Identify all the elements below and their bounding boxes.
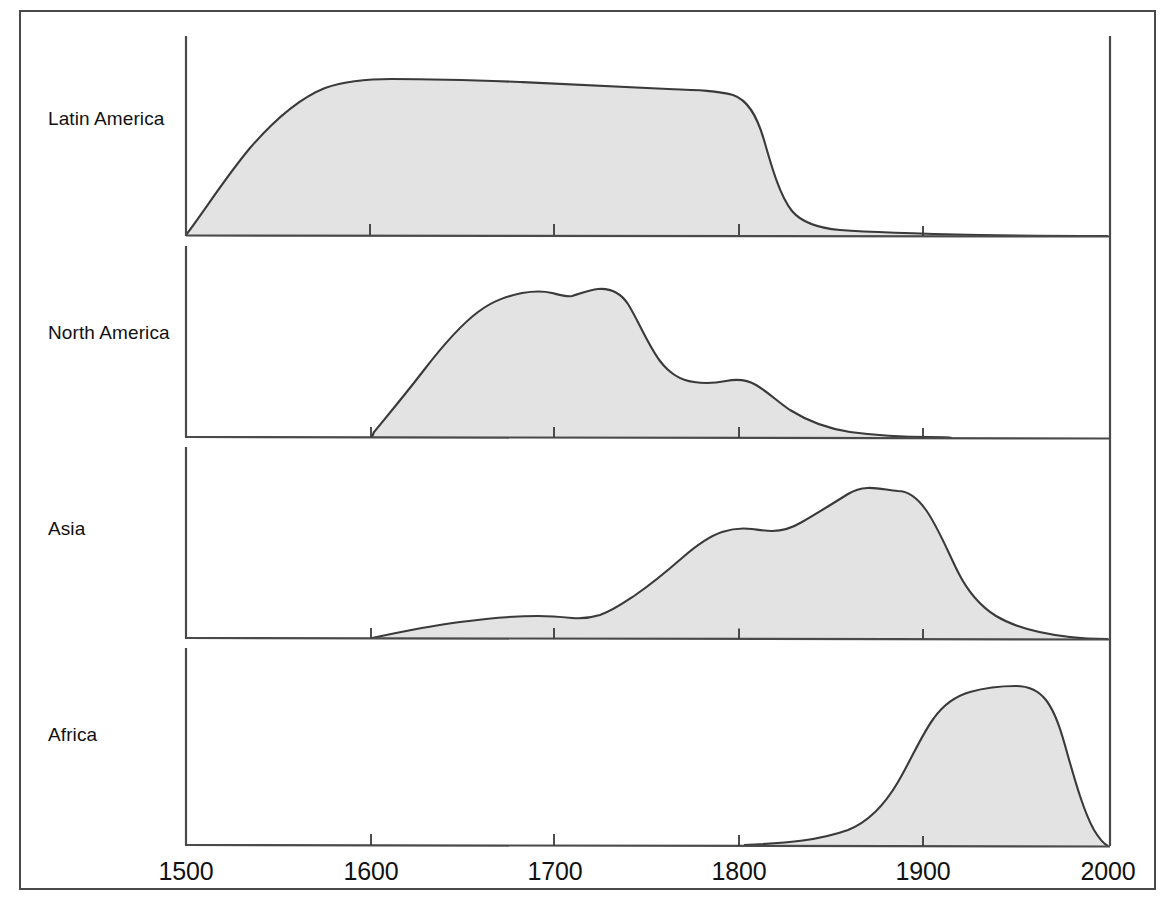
area-fill-africa xyxy=(744,686,1108,846)
x-tick-label-1500: 1500 xyxy=(159,857,214,886)
panel-label-north-america: North America xyxy=(48,322,170,344)
panel-label-africa: Africa xyxy=(48,724,97,746)
area-chart-plot xyxy=(0,0,1171,910)
baseline-africa xyxy=(186,845,1110,847)
x-tick-label-1700: 1700 xyxy=(528,857,583,886)
figure-container: Latin America North America Asia Africa … xyxy=(0,0,1171,910)
x-tick-label-1800: 1800 xyxy=(712,857,767,886)
panel-africa xyxy=(186,648,1110,847)
x-tick-label-1900: 1900 xyxy=(896,857,951,886)
baseline-latin-america xyxy=(186,236,1110,237)
panel-label-latin-america: Latin America xyxy=(48,108,164,130)
baseline-north-america xyxy=(186,437,1110,439)
x-tick-label-2000: 2000 xyxy=(1081,857,1136,886)
panel-latin-america xyxy=(186,36,1110,237)
area-fill-latin-america xyxy=(186,79,1108,236)
x-tick-label-1600: 1600 xyxy=(344,857,399,886)
panel-asia xyxy=(186,447,1110,640)
panel-north-america xyxy=(186,246,1110,439)
panel-label-asia: Asia xyxy=(48,518,85,540)
baseline-asia xyxy=(186,638,1110,640)
